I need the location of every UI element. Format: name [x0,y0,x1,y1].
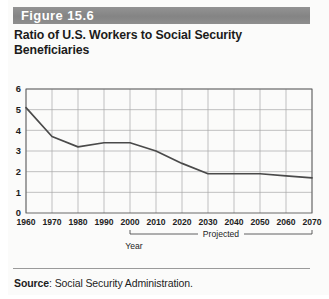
svg-text:4: 4 [16,125,22,136]
svg-text:2000: 2000 [120,217,139,227]
x-axis-title: Year [125,241,143,251]
svg-text:1970: 1970 [42,217,61,227]
svg-text:2: 2 [16,166,21,177]
chart: 6543210 19601970198019902000201020202030… [0,80,329,252]
svg-text:1980: 1980 [68,217,87,227]
figure-container: Figure 15.6 Ratio of U.S. Workers to Soc… [0,0,329,299]
svg-text:1990: 1990 [94,217,113,227]
figure-title-line-2: Beneficiaries [14,43,304,58]
svg-text:2050: 2050 [250,217,269,227]
svg-text:1960: 1960 [16,217,35,227]
source-label: Source [14,277,49,289]
svg-text:2060: 2060 [276,217,295,227]
figure-title-line-1: Ratio of U.S. Workers to Social Security [14,28,304,43]
projected-label: Projected [203,229,240,239]
y-axis-tick-labels: 6543210 [16,83,22,218]
svg-text:2040: 2040 [224,217,243,227]
source-value: : Social Security Administration. [49,277,193,289]
source-note: Source: Social Security Administration. [14,277,193,289]
svg-text:6: 6 [16,83,21,94]
figure-header-band: Figure 15.6 [13,7,310,24]
figure-number-label: Figure 15.6 [21,8,94,24]
svg-text:1: 1 [16,187,21,198]
svg-text:2070: 2070 [302,217,321,227]
x-axis-tick-labels: 1960197019801990200020102020203020402050… [16,217,321,227]
figure-title: Ratio of U.S. Workers to Social Security… [14,28,304,58]
svg-text:2030: 2030 [198,217,217,227]
svg-text:5: 5 [16,104,21,115]
chart-gridlines [26,89,312,213]
svg-text:2020: 2020 [172,217,191,227]
svg-text:2010: 2010 [146,217,165,227]
source-divider [13,268,310,269]
bottom-margin [0,295,329,299]
data-series-line [26,108,312,178]
line-chart-svg: 6543210 19601970198019902000201020202030… [0,80,329,252]
svg-text:3: 3 [16,145,21,156]
